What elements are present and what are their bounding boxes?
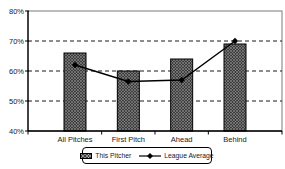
line-diamond-marker-icon xyxy=(139,152,161,160)
y-axis-tick-label: 50% xyxy=(9,97,24,106)
chart-canvas: 40%50%60%70%80% All PitchesFirst PitchAh… xyxy=(0,0,285,169)
bar-ahead xyxy=(171,59,193,131)
legend-item-league-average: League Average xyxy=(139,152,213,160)
hatched-bar-swatch-icon xyxy=(80,153,92,159)
x-axis-label-all-pitches: All Pitches xyxy=(57,135,92,144)
y-axis: 40%50%60%70%80% xyxy=(9,7,29,136)
x-axis-label-first-pitch: First Pitch xyxy=(112,135,145,144)
league-average-line xyxy=(75,41,235,82)
y-axis-tick-label: 80% xyxy=(9,7,24,16)
legend-label-this-pitcher: This Pitcher xyxy=(95,152,131,159)
bar-behind xyxy=(224,44,246,131)
line-series-league-average xyxy=(72,38,238,85)
y-axis-tick-label: 40% xyxy=(9,127,24,136)
bar-series-this-pitcher xyxy=(64,44,246,131)
pitching-percentage-chart: 40%50%60%70%80% All PitchesFirst PitchAh… xyxy=(0,0,285,169)
legend: This Pitcher League Average xyxy=(82,147,212,164)
y-axis-tick-label: 60% xyxy=(9,67,24,76)
x-axis-label-behind: Behind xyxy=(223,135,246,144)
x-axis-label-ahead: Ahead xyxy=(171,135,193,144)
y-axis-tick-label: 70% xyxy=(9,37,24,46)
legend-item-this-pitcher: This Pitcher xyxy=(80,152,131,159)
legend-label-league-average: League Average xyxy=(164,152,213,159)
